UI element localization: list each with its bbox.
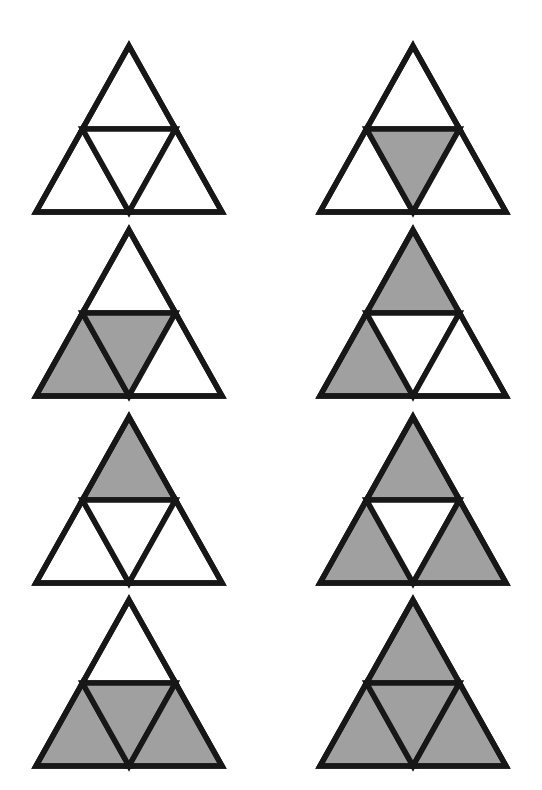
- triangle-grid: [0, 0, 542, 790]
- figure-sheet: [0, 0, 542, 790]
